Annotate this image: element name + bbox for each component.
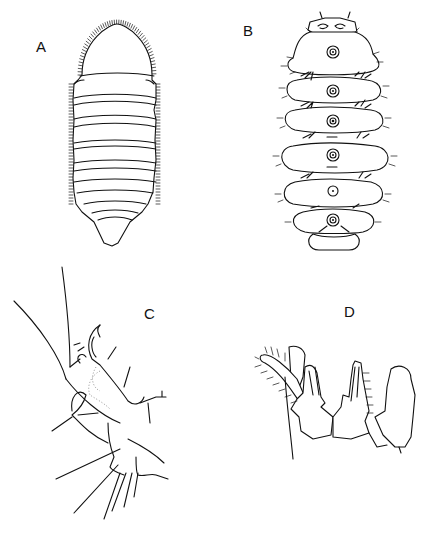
panel-c: C <box>0 267 215 534</box>
ventral-body-drawing <box>215 0 430 267</box>
appendage-claw-drawing <box>0 267 215 534</box>
mouthparts-drawing <box>215 267 430 534</box>
dorsal-body-drawing <box>0 0 215 267</box>
panel-b: B <box>215 0 430 267</box>
panel-a: A <box>0 0 215 267</box>
panel-d: D <box>215 267 430 534</box>
